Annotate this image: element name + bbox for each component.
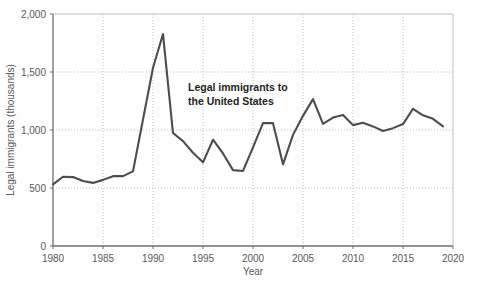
x-tick-label-1995: 1995 <box>192 253 215 264</box>
x-tick-label-1980: 1980 <box>42 253 65 264</box>
x-tick-label-1990: 1990 <box>142 253 165 264</box>
y-axis-title: Legal immigrants (thousands) <box>5 64 16 196</box>
line-chart: 198019851990199520002005201020152020 050… <box>0 0 478 287</box>
series-annotation-line2: the United States <box>188 95 274 107</box>
x-tick-label-1985: 1985 <box>92 253 115 264</box>
y-tick-label-2,000: 2,000 <box>21 9 46 20</box>
y-tick-label-1,500: 1,500 <box>21 67 46 78</box>
y-tick-label-500: 500 <box>29 183 46 194</box>
chart-container: 198019851990199520002005201020152020 050… <box>0 0 478 287</box>
x-tick-label-2015: 2015 <box>392 253 415 264</box>
x-tick-label-2005: 2005 <box>292 253 315 264</box>
y-tick-label-0: 0 <box>40 241 46 252</box>
x-tick-label-2000: 2000 <box>242 253 265 264</box>
x-tick-label-2010: 2010 <box>342 253 365 264</box>
series-annotation-line1: Legal immigrants to <box>188 81 288 93</box>
y-tick-label-1,000: 1,000 <box>21 125 46 136</box>
x-axis-title: Year <box>243 266 264 277</box>
chart-background <box>0 0 478 287</box>
x-tick-label-2020: 2020 <box>442 253 465 264</box>
